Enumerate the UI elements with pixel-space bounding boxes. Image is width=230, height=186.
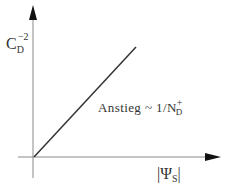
- y-axis-label: CD−2: [6, 36, 35, 52]
- slope-numerator: 1/N: [156, 100, 177, 115]
- slope-n-subscript: D: [176, 107, 183, 117]
- y-label-base: C: [6, 35, 17, 52]
- slope-relation: ~: [145, 100, 152, 115]
- x-axis-label: |ΨS|: [157, 166, 181, 182]
- diagram-graphics: [0, 0, 230, 186]
- x-axis-arrow-icon: [205, 153, 221, 161]
- diagram-canvas: CD−2 Anstieg ~ 1/N+D |ΨS|: [0, 0, 230, 186]
- x-label-subscript: S: [172, 173, 178, 184]
- slope-text: Anstieg: [98, 100, 141, 115]
- y-label-subscript: D: [17, 44, 24, 55]
- slope-annotation: Anstieg ~ 1/N+D: [98, 101, 190, 114]
- y-label-superscript: −2: [18, 31, 29, 42]
- y-axis-arrow-icon: [29, 5, 37, 20]
- x-label-base: Ψ: [160, 165, 172, 182]
- x-label-close-bar: |: [178, 165, 181, 182]
